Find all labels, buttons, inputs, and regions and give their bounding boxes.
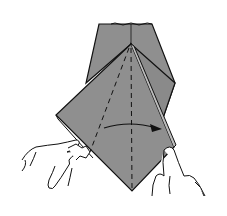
- origami-diagram: [0, 0, 227, 216]
- left-hand: [22, 140, 90, 189]
